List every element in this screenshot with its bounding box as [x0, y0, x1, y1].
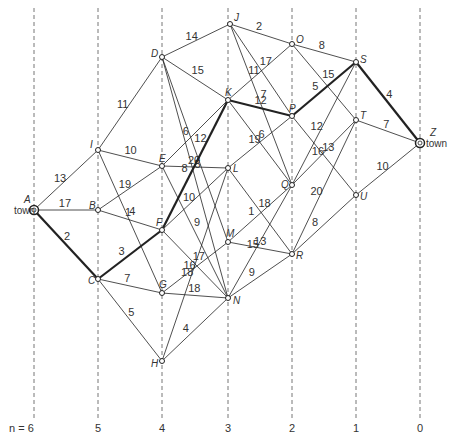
edge-D-M	[162, 57, 228, 242]
edge-weight: 17	[59, 197, 71, 209]
edge-weight: 9	[194, 216, 200, 228]
edge-weight: 19	[119, 178, 131, 190]
nodes: townAIBCDEFGHJKLMNOPQRSTUtownZ	[14, 12, 447, 369]
node-icon	[226, 296, 231, 301]
edge-weight: 10	[376, 160, 388, 172]
node-icon	[96, 277, 101, 282]
edge-weight: 7	[383, 118, 389, 130]
edge-weight: 11	[117, 98, 128, 110]
node-icon	[160, 228, 165, 233]
edge-weight: 14	[186, 30, 198, 42]
edge-S-Z	[356, 62, 420, 143]
node-label: Q	[281, 179, 289, 190]
node-label: D	[151, 48, 158, 59]
node-icon	[290, 114, 295, 119]
node-icon	[160, 55, 165, 60]
stage-label: 3	[225, 422, 231, 434]
edge-weight: 20	[310, 185, 322, 197]
town-label: town	[426, 138, 447, 149]
edge-weight: 18	[188, 282, 200, 294]
node-label: C	[88, 275, 96, 286]
node-icon	[228, 22, 233, 27]
edge-weight: 8	[319, 39, 325, 51]
node-icon	[160, 359, 165, 364]
edge-weight: 12	[254, 94, 266, 106]
edge-weight: 13	[54, 172, 66, 184]
stage-label: 0	[417, 422, 423, 434]
edge-weight: 5	[312, 80, 318, 92]
edge-weight: 18	[181, 266, 193, 278]
stage-label: 5	[95, 422, 101, 434]
stage-labels: n = 6543210	[9, 422, 423, 434]
edge-weight: 13	[322, 141, 334, 153]
node-label: H	[151, 358, 159, 369]
town-label: town	[14, 205, 35, 216]
node-label: F	[156, 217, 163, 228]
node-label: S	[360, 54, 367, 65]
node-icon	[226, 240, 231, 245]
edge-weight: 2	[64, 230, 70, 242]
edge-weight: 4	[183, 322, 189, 334]
edge-weight: 5	[128, 306, 134, 318]
edge-weight: 9	[249, 266, 255, 278]
edge-N-R	[228, 254, 292, 298]
node-icon	[96, 208, 101, 213]
node-icon	[226, 98, 231, 103]
node-icon	[354, 193, 359, 198]
node-icon	[354, 118, 359, 123]
town-node-inner-icon	[418, 141, 422, 145]
node-label: O	[296, 34, 304, 45]
node-label: L	[233, 163, 239, 174]
node-icon	[96, 148, 101, 153]
edge-weight: 6	[183, 125, 189, 137]
edge-M-Q	[228, 185, 292, 242]
node-label: T	[360, 110, 367, 121]
edge-weight: 1	[125, 206, 131, 218]
node-label: I	[90, 139, 93, 150]
stagecoach-network-diagram: 1317211104191375141512562098101716181842…	[0, 0, 457, 440]
edge-weight: 11	[248, 64, 259, 76]
edge-F-K	[162, 100, 228, 230]
edge-weight: 18	[258, 197, 270, 209]
stage-label: 1	[353, 422, 359, 434]
node-icon	[160, 291, 165, 296]
edge-weight: 8	[181, 162, 187, 174]
node-icon	[226, 166, 231, 171]
node-icon	[290, 42, 295, 47]
node-icon	[290, 252, 295, 257]
node-label: B	[89, 200, 96, 211]
edge-E-N	[162, 166, 228, 298]
node-icon	[290, 183, 295, 188]
node-label: M	[226, 228, 235, 239]
stage-label: 2	[289, 422, 295, 434]
edge-weight: 19	[248, 133, 260, 145]
network-graph: 1317211104191375141512562098101716181842…	[0, 0, 457, 440]
node-label: G	[159, 279, 167, 290]
edge-H-N	[162, 298, 228, 361]
edge-weight: 4	[386, 88, 392, 100]
edge-weight: 10	[183, 191, 195, 203]
node-label: J	[233, 12, 240, 23]
edge-R-U	[292, 195, 356, 254]
stage-label: n = 6	[9, 422, 34, 434]
edge-weight: 12	[194, 132, 206, 144]
edge-A-C	[34, 210, 98, 279]
edge-weight: 10	[124, 144, 136, 156]
edge-weight: 12	[311, 120, 323, 132]
edge-I-D	[98, 57, 162, 150]
edge-weight: 15	[247, 238, 259, 250]
edge-weight: 15	[192, 64, 204, 76]
node-label: A	[23, 194, 31, 205]
node-label: Z	[429, 127, 437, 138]
node-label: P	[289, 103, 296, 114]
edge-weight: 2	[256, 20, 262, 32]
stage-label: 4	[159, 422, 165, 434]
edge-weight: 1	[248, 205, 254, 217]
node-icon	[354, 60, 359, 65]
node-label: U	[360, 191, 368, 202]
edge-weight: 17	[260, 55, 272, 67]
edge-weight: 16	[312, 145, 324, 157]
node-label: R	[296, 250, 303, 261]
edge-R-T	[292, 120, 356, 254]
edge-weight: 8	[312, 216, 318, 228]
